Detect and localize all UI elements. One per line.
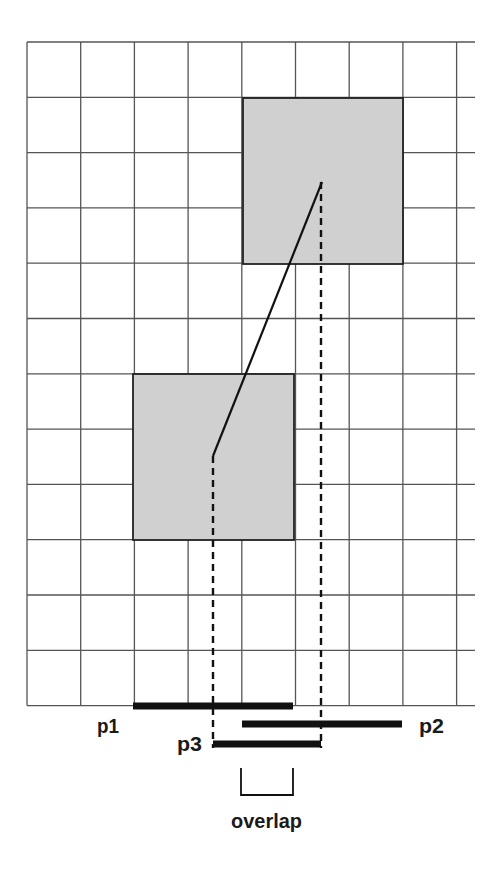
label-overlap: overlap (231, 809, 302, 832)
overlap-bracket-shape (241, 768, 293, 795)
label-p1: p1 (97, 714, 119, 737)
projection-bars (133, 706, 402, 744)
overlap-bracket (241, 768, 293, 795)
overlap-diagram: p1 p2 p3 overlap (0, 0, 494, 875)
label-p3: p3 (177, 732, 202, 755)
label-p2: p2 (419, 714, 444, 737)
upper-box (243, 98, 403, 264)
